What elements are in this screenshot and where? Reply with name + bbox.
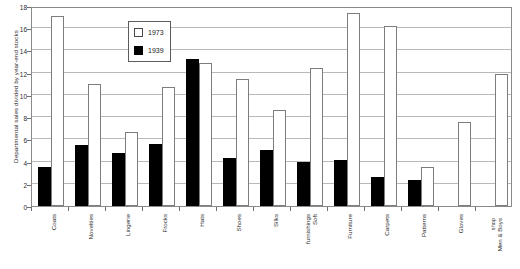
y-axis-tick-mark [27,118,31,119]
gridline [32,49,511,50]
y-axis-tick-mark [27,7,31,8]
bar-1973 [88,84,101,206]
y-axis-tick-mark [27,51,31,52]
x-axis-tick-mark [438,207,439,211]
gridline [32,94,511,95]
bar-1973 [384,26,397,206]
x-axis-tick-mark [401,207,402,211]
x-axis-category-label: Novelties [88,214,95,266]
y-axis-tick-label: 2 [5,181,27,188]
y-axis-tick-mark [27,163,31,164]
x-axis-tick-mark [364,207,365,211]
bar-1973 [199,63,212,206]
y-axis-tick-label: 4 [5,159,27,166]
legend-label: 1973 [148,29,164,36]
x-axis-category-label: Lingerie [125,214,132,266]
y-axis-tick-label: 18 [5,4,27,11]
x-axis-category-label: Coats [51,214,58,266]
bar-1973 [51,16,64,206]
gridline [32,138,511,139]
x-axis-category-label: Silks [273,214,280,266]
bar-1939 [75,145,88,206]
y-axis-tick-mark [27,96,31,97]
x-axis-tick-mark [31,207,32,211]
x-axis-tick-mark [105,207,106,211]
gridline [32,72,511,73]
bar-1939 [334,160,347,206]
bar-1973 [236,79,249,206]
x-axis-tick-mark [327,207,328,211]
bar-1973 [495,74,508,206]
x-axis-tick-mark [179,207,180,211]
bar-1939 [297,162,310,206]
y-axis-tick-label: 12 [5,70,27,77]
gridline [32,27,511,28]
bar-1973 [162,87,175,206]
gridline [32,116,511,117]
bar-1939 [408,180,421,206]
x-axis-category-label: Patterns [421,214,428,266]
x-axis-tick-mark [142,207,143,211]
y-axis-tick-label: 6 [5,137,27,144]
y-axis-tick-mark [27,140,31,141]
bar-1973 [273,110,286,206]
bar-1973 [347,13,360,206]
y-axis-tick-mark [27,185,31,186]
y-axis-tick-label: 16 [5,26,27,33]
x-axis-category-label: furnishingsSoft [305,214,318,266]
legend: 19731939 [128,21,171,62]
x-axis-tick-mark [68,207,69,211]
x-axis-category-label: Shoes [236,214,243,266]
bar-1939 [112,153,125,206]
x-axis-tick-mark [216,207,217,211]
x-axis-tick-mark [253,207,254,211]
x-axis-category-label: Frocks [162,214,169,266]
x-axis-category-label: shopMen & Boys [490,218,503,266]
plot-area: 19731939 [31,7,512,207]
y-axis-tick-label: 10 [5,92,27,99]
bar-1939 [260,150,273,206]
x-axis-category-label: Furniture [347,214,354,266]
bar-1973 [458,122,471,206]
y-axis-tick-label: 0 [5,204,27,211]
x-axis-tick-mark [475,207,476,211]
bar-1939 [149,144,162,206]
bar-1973 [421,167,434,206]
legend-swatch-1939 [134,46,143,55]
y-axis-tick-label: 8 [5,115,27,122]
bar-1973 [125,132,138,206]
bar-1939 [371,177,384,206]
bar-1973 [310,68,323,206]
x-axis-tick-mark [290,207,291,211]
x-axis-category-label: Gloves [458,214,465,266]
legend-swatch-1973 [134,28,143,37]
x-axis-category-label: Carpets [384,214,391,266]
y-axis-tick-label: 14 [5,48,27,55]
y-axis-tick-mark [27,29,31,30]
bar-1939 [38,167,51,206]
y-axis-tick-mark [27,74,31,75]
bar-1939 [186,59,199,206]
x-axis-category-label: Hats [199,214,206,266]
bar-1939 [223,158,236,206]
legend-label: 1939 [148,47,164,54]
bar-chart: Departmental sales divided by year-end s… [0,0,520,269]
